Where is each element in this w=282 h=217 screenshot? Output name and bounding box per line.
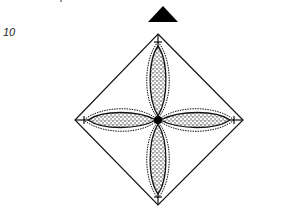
center-point [154,116,162,124]
fold-diagram [0,0,282,217]
indicator-triangle-icon [148,6,178,22]
